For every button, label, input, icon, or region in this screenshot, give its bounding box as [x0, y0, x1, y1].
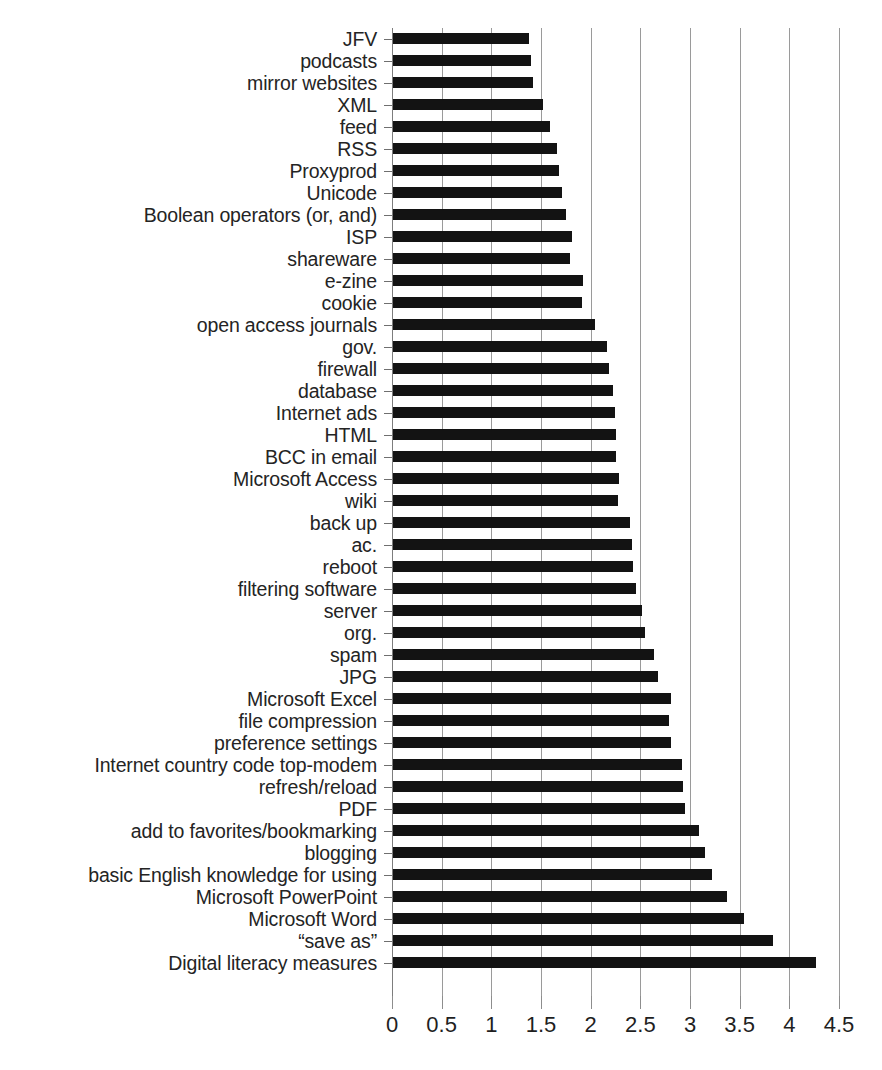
category-tick: [384, 237, 392, 238]
category-label: spam: [0, 644, 377, 666]
bar: [392, 605, 642, 616]
bar-band: [392, 226, 839, 248]
bar-band: [392, 622, 839, 644]
x-tick-2: [591, 996, 592, 1009]
bar: [392, 627, 645, 638]
category-tick: [384, 347, 392, 348]
category-tick: [384, 413, 392, 414]
bar-band: [392, 314, 839, 336]
bar-band: [392, 556, 839, 578]
bar-band: [392, 336, 839, 358]
bar-band: [392, 842, 839, 864]
category-label: wiki: [0, 490, 377, 512]
bar: [392, 407, 615, 418]
category-tick: [384, 61, 392, 62]
category-label: Digital literacy measures: [0, 952, 377, 974]
bar: [392, 99, 543, 110]
bar: [392, 671, 658, 682]
x-tick-label: 1: [485, 1012, 497, 1038]
category-tick: [384, 875, 392, 876]
category-tick: [384, 567, 392, 568]
category-tick: [384, 457, 392, 458]
category-label: podcasts: [0, 50, 377, 72]
category-tick: [384, 963, 392, 964]
category-label: ac.: [0, 534, 377, 556]
x-tick-3.5: [740, 996, 741, 1009]
bar: [392, 847, 705, 858]
category-tick: [384, 193, 392, 194]
bar-band: [392, 28, 839, 50]
bar: [392, 869, 712, 880]
category-label: refresh/reload: [0, 776, 377, 798]
bar: [392, 913, 744, 924]
category-tick: [384, 677, 392, 678]
category-axis-labels: JFVpodcastsmirror websitesXMLfeedRSSProx…: [0, 28, 377, 996]
bar: [392, 451, 616, 462]
bar-band: [392, 820, 839, 842]
bar-band: [392, 468, 839, 490]
category-tick: [384, 83, 392, 84]
category-tick: [384, 897, 392, 898]
bar: [392, 341, 607, 352]
category-label: Unicode: [0, 182, 377, 204]
category-tick: [384, 633, 392, 634]
bar-band: [392, 908, 839, 930]
bar-band: [392, 72, 839, 94]
category-label: feed: [0, 116, 377, 138]
category-label: server: [0, 600, 377, 622]
category-tick: [384, 127, 392, 128]
bar: [392, 583, 636, 594]
category-label: mirror websites: [0, 72, 377, 94]
category-tick: [384, 215, 392, 216]
bar-band: [392, 248, 839, 270]
x-tick-label: 0: [386, 1012, 398, 1038]
bar-band: [392, 710, 839, 732]
bar: [392, 165, 559, 176]
bar-band: [392, 182, 839, 204]
category-tick: [384, 919, 392, 920]
x-tick-1: [491, 996, 492, 1009]
category-label: blogging: [0, 842, 377, 864]
category-tick: [384, 699, 392, 700]
category-tick: [384, 479, 392, 480]
category-label: Microsoft Word: [0, 908, 377, 930]
bar: [392, 737, 671, 748]
bar-band: [392, 952, 839, 974]
category-label: ISP: [0, 226, 377, 248]
category-tick: [384, 391, 392, 392]
bar-band: [392, 490, 839, 512]
category-tick: [384, 259, 392, 260]
bar: [392, 187, 562, 198]
category-label: JPG: [0, 666, 377, 688]
bar: [392, 561, 633, 572]
bar-band: [392, 50, 839, 72]
bar-band: [392, 864, 839, 886]
bar: [392, 891, 727, 902]
category-tick: [384, 523, 392, 524]
bar-band: [392, 402, 839, 424]
bar: [392, 363, 609, 374]
category-label: e-zine: [0, 270, 377, 292]
bar-band: [392, 776, 839, 798]
bar-band: [392, 160, 839, 182]
category-label: PDF: [0, 798, 377, 820]
category-tick: [384, 545, 392, 546]
category-label: XML: [0, 94, 377, 116]
category-tick: [384, 655, 392, 656]
category-label: Internet ads: [0, 402, 377, 424]
category-tick: [384, 589, 392, 590]
bar-band: [392, 358, 839, 380]
bar-band: [392, 732, 839, 754]
bar: [392, 55, 531, 66]
category-label: “save as”: [0, 930, 377, 952]
category-tick: [384, 721, 392, 722]
bar: [392, 759, 682, 770]
category-tick: [384, 39, 392, 40]
category-label: add to favorites/bookmarking: [0, 820, 377, 842]
category-label: cookie: [0, 292, 377, 314]
x-tick-label: 1.5: [526, 1012, 557, 1038]
category-tick: [384, 171, 392, 172]
x-tick-label: 4: [783, 1012, 795, 1038]
bar-band: [392, 578, 839, 600]
category-label: Microsoft Excel: [0, 688, 377, 710]
